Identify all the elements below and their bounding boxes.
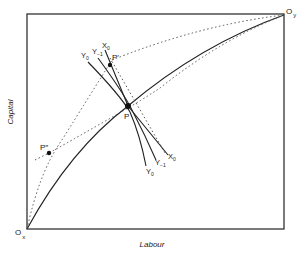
label-x0-upper: X0 (102, 41, 110, 51)
y-axis-label: Capital (6, 99, 15, 124)
label-p-double-prime: P″ (40, 143, 48, 152)
edgeworth-box-diagram: P P′ P″ Y0 Y−1 X0 Y0 Y−1 X0 Ox Oy Labour… (0, 0, 300, 253)
label-p: P (124, 112, 129, 121)
point-p-prime (108, 63, 112, 67)
label-origin-x: Ox (15, 228, 25, 240)
label-y0-lower: Y0 (146, 167, 154, 177)
contract-curve (27, 15, 284, 229)
edgeworth-box-frame (27, 14, 284, 229)
label-y0-upper: Y0 (81, 51, 89, 61)
label-p-prime: P′ (112, 53, 119, 62)
dotted-tangent-line (110, 58, 165, 153)
x-axis-label: Labour (140, 240, 165, 249)
label-y-minus1-lower: Y−1 (155, 158, 166, 168)
dotted-curve-pdouble-oy (35, 15, 284, 160)
dotted-curve-pprime-oy (112, 15, 284, 60)
label-x0-lower: X0 (168, 152, 176, 162)
point-p (125, 103, 131, 109)
label-origin-y: Oy (286, 7, 296, 18)
